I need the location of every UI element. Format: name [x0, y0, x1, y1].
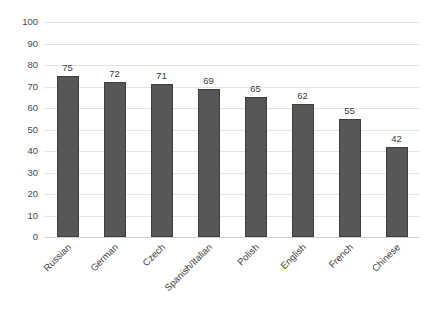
y-axis: 1009080706050403020100 — [0, 22, 38, 237]
bar-value-label: 69 — [203, 76, 214, 86]
bar[interactable] — [386, 147, 408, 237]
y-tick-label: 20 — [27, 189, 38, 199]
x-tick-slot: French — [328, 240, 372, 309]
bar[interactable] — [245, 97, 267, 237]
bar[interactable] — [198, 89, 220, 237]
bar-group[interactable]: 42 — [375, 22, 419, 237]
bar-group[interactable]: 72 — [93, 22, 137, 237]
x-tick-slot: Polish — [234, 240, 278, 309]
bar-group[interactable]: 69 — [187, 22, 231, 237]
y-tick-label: 0 — [33, 232, 38, 242]
bar-value-label: 42 — [391, 134, 402, 144]
bar[interactable] — [104, 82, 126, 237]
bar[interactable] — [151, 84, 173, 237]
bar-group[interactable]: 71 — [140, 22, 184, 237]
bar-chart: 1009080706050403020100 7572716965625542 … — [0, 0, 443, 309]
bar-value-label: 62 — [297, 91, 308, 101]
y-tick-label: 50 — [27, 125, 38, 135]
y-tick-label: 60 — [27, 103, 38, 113]
bar[interactable] — [339, 119, 361, 237]
bar-group[interactable]: 55 — [328, 22, 372, 237]
x-tick-slot: Chinese — [375, 240, 419, 309]
bar-value-label: 72 — [109, 69, 120, 79]
bar-group[interactable]: 62 — [281, 22, 325, 237]
y-tick-label: 40 — [27, 146, 38, 156]
bar-group[interactable]: 75 — [46, 22, 90, 237]
bar[interactable] — [57, 76, 79, 237]
x-tick-slot: English — [281, 240, 325, 309]
x-tick-slot: Spanish/Italian — [187, 240, 231, 309]
y-tick-label: 70 — [27, 82, 38, 92]
y-tick-label: 80 — [27, 60, 38, 70]
x-tick-slot: German — [93, 240, 137, 309]
bar-value-label: 71 — [156, 71, 167, 81]
bar-value-label: 75 — [62, 63, 73, 73]
bar[interactable] — [292, 104, 314, 237]
bar-value-label: 55 — [344, 106, 355, 116]
bar-value-label: 65 — [250, 84, 261, 94]
bars-layer: 7572716965625542 — [44, 22, 420, 237]
x-axis: RussianGermanCzechSpanish/ItalianPolishE… — [44, 240, 420, 309]
y-tick-label: 10 — [27, 211, 38, 221]
y-tick-label: 30 — [27, 168, 38, 178]
x-tick-slot: Russian — [46, 240, 90, 309]
y-tick-label: 90 — [27, 39, 38, 49]
y-tick-label: 100 — [22, 17, 38, 27]
